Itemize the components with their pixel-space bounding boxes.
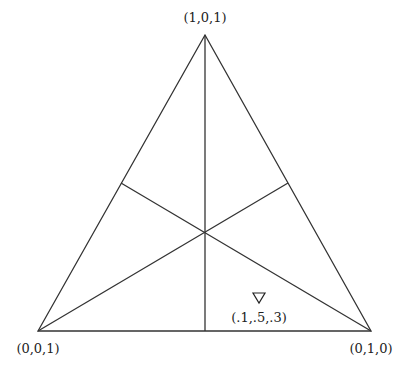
vertex-label-right: (0,1,0) xyxy=(349,341,392,356)
median-left xyxy=(38,183,288,331)
point-label: (.1,.5,.3) xyxy=(231,310,287,325)
simplex-diagram: (1,0,1) (0,0,1) (0,1,0) (.1,.5,.3) xyxy=(0,0,410,377)
vertex-label-top: (1,0,1) xyxy=(183,10,226,25)
vertex-label-left: (0,0,1) xyxy=(16,341,59,356)
point-marker-icon xyxy=(253,293,265,303)
median-right xyxy=(121,183,371,331)
